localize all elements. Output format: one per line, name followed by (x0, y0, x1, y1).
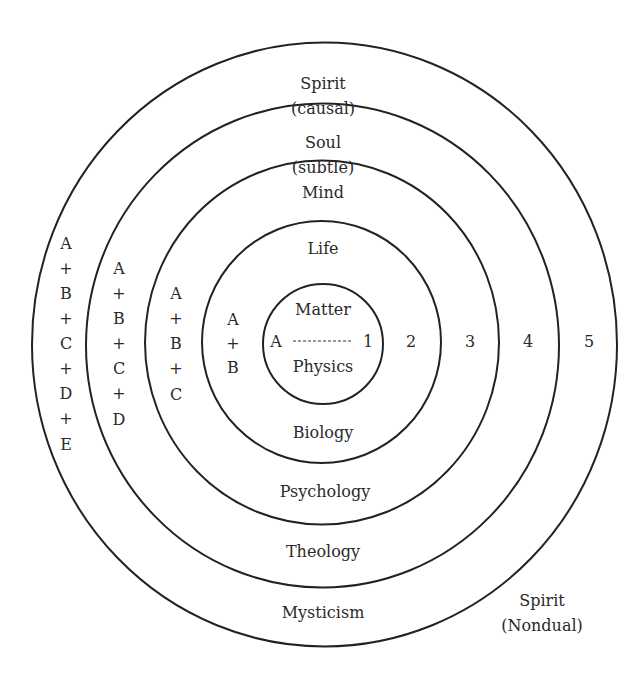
stack-letter: C (60, 334, 72, 353)
label-mysticism: Mysticism (282, 603, 365, 622)
stack-letter: A (59, 234, 72, 253)
stack-letter: C (170, 385, 182, 404)
stack-ring-4: A + B + C + D (112, 259, 125, 429)
axis-number-3: 3 (465, 332, 475, 351)
stack-letter: B (113, 309, 125, 328)
stack-letter: A (226, 310, 239, 329)
label-spirit: Spirit (300, 74, 346, 93)
label-matter: Matter (295, 300, 351, 319)
stack-plus: + (169, 309, 182, 328)
label-theology: Theology (286, 542, 360, 561)
stack-letter: D (60, 384, 73, 403)
axis-number-5: 5 (584, 332, 594, 351)
stack-plus: + (169, 359, 182, 378)
stack-plus: + (112, 284, 125, 303)
axis-start-a: A (269, 332, 282, 351)
stack-plus: + (59, 359, 72, 378)
stack-plus: + (226, 334, 239, 353)
label-biology: Biology (293, 423, 354, 442)
label-physics: Physics (293, 357, 354, 376)
label-subtle: (subtle) (292, 158, 354, 177)
label-spirit-nondual: Spirit (519, 591, 565, 610)
label-causal: (causal) (291, 99, 355, 118)
stack-letter: B (60, 284, 72, 303)
stack-letter: A (169, 284, 182, 303)
stack-plus: + (59, 259, 72, 278)
stack-letter: B (170, 334, 182, 353)
stack-letter: A (112, 259, 125, 278)
nested-holarchy-diagram: Spirit (causal) Soul (subtle) Mind Life … (0, 0, 636, 679)
stack-plus: + (59, 409, 72, 428)
stack-plus: + (112, 334, 125, 353)
label-soul: Soul (305, 133, 341, 152)
axis-number-4: 4 (523, 332, 533, 351)
stack-letter: C (113, 359, 125, 378)
label-nondual: (Nondual) (501, 616, 583, 635)
label-psychology: Psychology (280, 482, 371, 501)
stack-ring-5: A + B + C + D + E (59, 234, 72, 454)
stack-letter: E (60, 435, 72, 454)
stack-letter: D (113, 410, 126, 429)
stack-plus: + (59, 309, 72, 328)
stack-plus: + (112, 384, 125, 403)
label-mind: Mind (302, 183, 344, 202)
stack-ring-3: A + B + C (169, 284, 182, 404)
axis-number-1: 1 (363, 332, 373, 351)
stack-letter: B (227, 358, 239, 377)
ring-mind (145, 161, 499, 525)
axis-number-2: 2 (406, 332, 416, 351)
label-life: Life (307, 239, 338, 258)
stack-ring-2: A + B (226, 310, 239, 377)
